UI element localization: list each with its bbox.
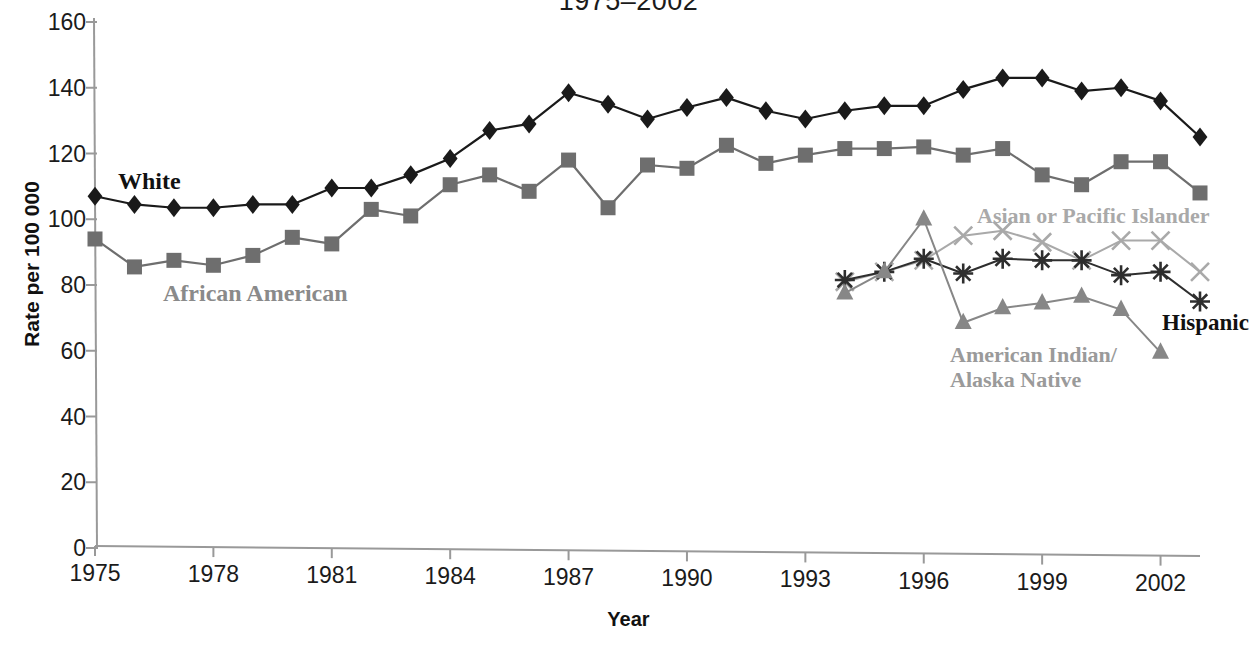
data-point-square[interactable] (324, 236, 339, 251)
data-point-diamond[interactable] (877, 96, 892, 115)
data-point-square[interactable] (561, 153, 576, 168)
data-point-diamond[interactable] (719, 88, 734, 107)
data-point-diamond[interactable] (127, 195, 142, 214)
x-axis-line (95, 546, 1200, 556)
data-point-diamond[interactable] (837, 101, 852, 120)
data-point-square[interactable] (1153, 154, 1168, 169)
data-point-diamond[interactable] (1035, 68, 1050, 87)
data-point-diamond[interactable] (167, 198, 182, 217)
data-point-x[interactable] (1033, 233, 1051, 251)
data-point-square[interactable] (166, 253, 181, 268)
data-point-asterisk[interactable] (1032, 250, 1052, 270)
data-point-square[interactable] (679, 161, 694, 176)
data-point-diamond[interactable] (324, 179, 339, 198)
data-point-diamond[interactable] (522, 114, 537, 133)
data-point-square[interactable] (956, 148, 971, 163)
series-white (88, 68, 1208, 217)
data-point-diamond[interactable] (1114, 78, 1129, 97)
data-point-square[interactable] (482, 167, 497, 182)
data-point-square[interactable] (1193, 185, 1208, 200)
series-line (845, 259, 1200, 302)
data-point-square[interactable] (1035, 167, 1050, 182)
series-line (845, 219, 1161, 352)
data-point-square[interactable] (127, 259, 142, 274)
data-point-square[interactable] (285, 230, 300, 245)
data-point-diamond[interactable] (285, 195, 300, 214)
series-line (845, 231, 1200, 282)
chart-container: 1975–2002 Rate per 100 000 Year 02040608… (0, 0, 1257, 649)
data-point-square[interactable] (443, 177, 458, 192)
data-point-diamond[interactable] (1193, 128, 1208, 147)
data-point-square[interactable] (245, 248, 260, 263)
data-point-diamond[interactable] (482, 121, 497, 140)
data-point-triangle[interactable] (915, 209, 932, 225)
data-point-square[interactable] (640, 158, 655, 173)
data-point-square[interactable] (837, 141, 852, 156)
data-point-asterisk[interactable] (953, 263, 973, 283)
data-point-diamond[interactable] (206, 198, 221, 217)
data-point-diamond[interactable] (364, 179, 379, 198)
data-point-square[interactable] (403, 208, 418, 223)
data-point-square[interactable] (364, 202, 379, 217)
data-point-diamond[interactable] (403, 165, 418, 184)
data-point-diamond[interactable] (640, 109, 655, 128)
data-point-x[interactable] (1191, 263, 1209, 281)
data-point-asterisk[interactable] (993, 249, 1013, 269)
data-point-square[interactable] (758, 156, 773, 171)
data-point-diamond[interactable] (245, 195, 260, 214)
data-point-diamond[interactable] (601, 95, 616, 114)
data-point-diamond[interactable] (956, 80, 971, 99)
plot-area (0, 0, 1257, 649)
data-point-square[interactable] (522, 184, 537, 199)
data-point-diamond[interactable] (88, 187, 103, 206)
data-point-square[interactable] (995, 141, 1010, 156)
data-point-square[interactable] (601, 200, 616, 215)
data-point-diamond[interactable] (1153, 91, 1168, 110)
data-point-diamond[interactable] (798, 109, 813, 128)
data-point-asterisk[interactable] (914, 249, 934, 269)
series-asian-or-pacific-islander (836, 222, 1209, 291)
data-point-asterisk[interactable] (1190, 291, 1210, 311)
data-point-triangle[interactable] (994, 298, 1011, 314)
data-point-diamond[interactable] (561, 83, 576, 102)
data-point-square[interactable] (1074, 177, 1089, 192)
data-point-asterisk[interactable] (1151, 262, 1171, 282)
data-point-square[interactable] (916, 139, 931, 154)
data-point-diamond[interactable] (916, 96, 931, 115)
data-point-square[interactable] (798, 148, 813, 163)
data-point-diamond[interactable] (995, 68, 1010, 87)
data-point-diamond[interactable] (758, 101, 773, 120)
data-point-diamond[interactable] (443, 149, 458, 168)
data-point-square[interactable] (877, 141, 892, 156)
data-point-square[interactable] (88, 231, 103, 246)
data-point-diamond[interactable] (1074, 82, 1089, 101)
data-point-asterisk[interactable] (1111, 265, 1131, 285)
data-point-square[interactable] (1114, 154, 1129, 169)
data-point-square[interactable] (206, 258, 221, 273)
data-point-asterisk[interactable] (1072, 250, 1092, 270)
y-axis-line (94, 18, 97, 549)
data-point-square[interactable] (719, 138, 734, 153)
data-point-diamond[interactable] (680, 98, 695, 117)
data-point-triangle[interactable] (1073, 286, 1090, 302)
series-line (95, 78, 1200, 208)
